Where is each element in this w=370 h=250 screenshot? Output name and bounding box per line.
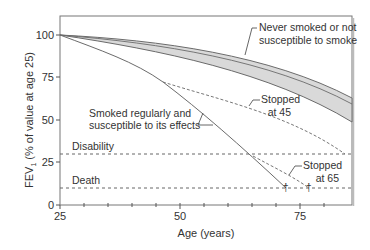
stop45-label-2: at 45 xyxy=(268,106,292,118)
y-tick-75: 75 xyxy=(42,71,54,83)
death-label: Death xyxy=(72,174,100,186)
smoked-label-1: Smoked regularly and xyxy=(89,107,191,119)
x-tick-25: 25 xyxy=(54,210,66,222)
y-tick-50: 50 xyxy=(42,114,54,126)
never-smoked-label-1: Never smoked or not xyxy=(259,21,357,33)
disability-label: Disability xyxy=(72,140,115,152)
y-axis-label: FEV1 (% of value at age 25) xyxy=(23,52,37,188)
x-tick-50: 50 xyxy=(174,210,186,222)
y-tick-100: 100 xyxy=(36,29,54,41)
never-smoked-label-2: susceptible to smoke xyxy=(259,34,357,46)
stop45-label-1: Stopped xyxy=(261,93,300,105)
stop65-label-2: at 65 xyxy=(316,172,340,184)
smoked-label-2: susceptible to its effects xyxy=(89,119,200,131)
x-tick-75: 75 xyxy=(294,210,306,222)
death-marker-stopped-65: † xyxy=(306,182,312,193)
fev1-chart: † † 100 75 50 25 0 25 50 75 Age (years) … xyxy=(0,0,370,250)
x-axis-label: Age (years) xyxy=(178,227,235,239)
y-axis xyxy=(56,35,60,205)
death-marker-smoker: † xyxy=(283,182,289,193)
y-tick-25: 25 xyxy=(42,156,54,168)
stop65-label-1: Stopped xyxy=(303,159,342,171)
